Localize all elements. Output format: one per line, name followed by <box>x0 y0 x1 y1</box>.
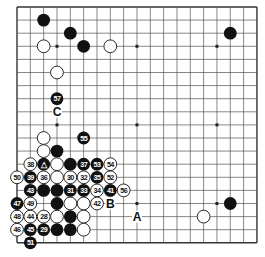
move-number: 30 <box>67 173 74 182</box>
white-stone: 30 <box>64 171 77 184</box>
move-number: 45 <box>27 225 34 234</box>
move-number: 54 <box>107 160 114 169</box>
black-stone: 41 <box>104 184 117 197</box>
move-number: 39 <box>27 173 34 182</box>
black-stone: 57 <box>51 92 64 105</box>
move-number: 44 <box>27 212 34 221</box>
move-number: 47 <box>14 199 21 208</box>
white-stone <box>50 171 63 184</box>
white-stone <box>104 40 117 53</box>
point-marker-a: A <box>133 210 142 224</box>
white-stone: 42 <box>91 197 104 210</box>
black-stone <box>37 14 50 27</box>
black-stone <box>51 184 64 197</box>
black-stone <box>51 223 64 236</box>
star-point <box>55 123 58 126</box>
black-stone: 35 <box>91 171 104 184</box>
black-stone <box>64 210 77 223</box>
black-stone: 37 <box>77 158 90 171</box>
move-number: 48 <box>14 212 21 221</box>
move-number: 34 <box>94 186 101 195</box>
black-stone: 33 <box>77 184 90 197</box>
white-stone: 49 <box>24 197 37 210</box>
move-number: 56 <box>120 186 127 195</box>
black-stone: 53 <box>91 158 104 171</box>
white-stone: 32 <box>77 171 90 184</box>
move-number: 57 <box>54 94 61 103</box>
black-stone: △ <box>37 158 50 171</box>
white-stone <box>37 131 50 144</box>
white-stone: 48 <box>11 210 24 223</box>
move-number: 53 <box>94 160 101 169</box>
star-point <box>215 45 218 48</box>
point-marker-b: B <box>106 197 115 211</box>
black-stone <box>51 145 64 158</box>
white-stone: 52 <box>104 171 117 184</box>
black-stone <box>224 27 237 40</box>
black-stone: 43 <box>24 184 37 197</box>
white-stone <box>37 145 50 158</box>
white-stone <box>50 210 63 223</box>
point-marker-c: C <box>53 105 62 119</box>
white-stone: 50 <box>11 171 24 184</box>
move-number: 43 <box>27 186 34 195</box>
black-stone <box>37 184 50 197</box>
star-point <box>215 202 218 205</box>
move-number: 31 <box>67 186 74 195</box>
move-number: 29 <box>40 225 47 234</box>
move-number: 55 <box>80 134 87 143</box>
move-number: 36 <box>40 173 47 182</box>
black-stone <box>64 223 77 236</box>
white-stone <box>64 197 77 210</box>
white-stone: 44 <box>24 210 37 223</box>
white-stone: 28 <box>37 210 50 223</box>
move-number: 52 <box>107 173 114 182</box>
move-number: 28 <box>40 212 47 221</box>
black-stone: 31 <box>64 184 77 197</box>
move-number: 33 <box>80 186 87 195</box>
star-point <box>215 123 218 126</box>
move-number: 38 <box>27 160 34 169</box>
white-stone: 46 <box>11 223 24 236</box>
white-stone <box>50 158 63 171</box>
move-number: 32 <box>80 173 87 182</box>
black-stone <box>77 40 90 53</box>
white-stone <box>197 210 210 223</box>
white-stone: 54 <box>104 158 117 171</box>
star-point <box>135 123 138 126</box>
black-stone: 39 <box>24 171 37 184</box>
white-stone: 38 <box>24 158 37 171</box>
move-number: 49 <box>27 199 34 208</box>
white-stone <box>77 223 90 236</box>
white-stone: 36 <box>37 171 50 184</box>
white-stone: 34 <box>91 184 104 197</box>
star-point <box>135 202 138 205</box>
white-stone <box>37 40 50 53</box>
black-stone: 55 <box>77 132 90 145</box>
black-stone <box>224 197 237 210</box>
move-number: 41 <box>107 186 114 195</box>
move-number: 50 <box>14 173 21 182</box>
white-stone <box>77 197 90 210</box>
move-number: 46 <box>14 225 21 234</box>
black-stone: 45 <box>24 223 37 236</box>
white-stone: 56 <box>117 184 130 197</box>
move-number: 42 <box>94 199 101 208</box>
black-stone: 51 <box>24 236 37 249</box>
white-stone <box>50 66 63 79</box>
black-stone <box>64 158 77 171</box>
go-board: 575538△375354503936303235524331333441564… <box>0 0 265 257</box>
black-stone: 29 <box>37 223 50 236</box>
white-stone <box>77 210 90 223</box>
move-number: 35 <box>94 173 101 182</box>
black-stone <box>64 27 77 40</box>
move-number: 37 <box>80 160 87 169</box>
star-point <box>135 45 138 48</box>
black-stone: 47 <box>11 197 24 210</box>
star-point <box>55 45 58 48</box>
black-stone <box>51 197 64 210</box>
move-number: 51 <box>27 238 34 247</box>
